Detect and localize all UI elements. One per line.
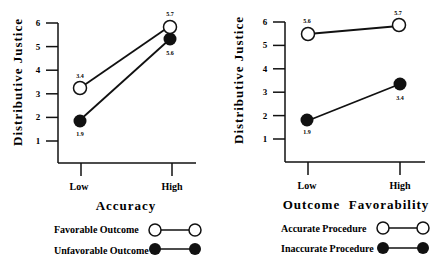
- right-value-acc-low: 5.6: [303, 18, 311, 24]
- right-legend-filled-marker-1: [377, 242, 389, 254]
- right-legend-open-label: Accurate Procedure: [281, 223, 367, 234]
- right-chart: Distributive Justice 1 2 3 4 5 6 Low Hig…: [231, 10, 429, 254]
- right-y-ticks: [273, 22, 285, 139]
- right-value-inacc-high: 3.4: [396, 95, 404, 101]
- right-inaccurate-high-marker: [394, 78, 407, 91]
- left-favorable-high-marker: [164, 21, 177, 34]
- right-value-inacc-low: 1.9: [303, 129, 311, 135]
- figure: Distributive Justice 1 2 3 4 5 6 Low Hig…: [0, 0, 442, 269]
- svg-text:5: 5: [263, 40, 268, 50]
- left-y-ticks: [46, 23, 58, 141]
- left-x-label-low: Low: [70, 181, 90, 192]
- left-legend-filled-label: Unfavorable Outcome: [54, 245, 149, 256]
- right-x-label-low: Low: [298, 180, 318, 191]
- svg-text:2: 2: [36, 112, 41, 122]
- right-inaccurate-low-marker: [301, 114, 314, 127]
- left-y-tick-labels: 1 2 3 4 5 6: [36, 18, 41, 146]
- left-favorable-low-marker: [74, 82, 87, 95]
- left-value-unfav-low: 1.9: [76, 131, 84, 137]
- svg-text:1: 1: [36, 136, 41, 146]
- right-y-axis-title: Distributive Justice: [231, 16, 246, 144]
- svg-text:3: 3: [36, 89, 41, 99]
- left-value-unfav-high: 5.6: [166, 50, 174, 56]
- svg-text:4: 4: [263, 64, 268, 74]
- left-unfavorable-low-marker: [74, 115, 87, 128]
- left-unfavorable-high-marker: [164, 33, 177, 46]
- left-value-fav-low: 3.4: [76, 73, 84, 79]
- right-accurate-low-marker: [302, 28, 315, 41]
- left-legend-open-label: Favorable Outcome: [54, 224, 139, 235]
- right-x-axis-title: Outcome Favorability: [283, 197, 430, 212]
- left-legend-filled-marker-1: [149, 243, 161, 255]
- svg-text:4: 4: [36, 65, 41, 75]
- left-value-fav-high: 5.7: [166, 11, 174, 17]
- left-y-axis-title: Distributive Justice: [10, 18, 25, 146]
- svg-text:6: 6: [36, 18, 41, 28]
- right-inaccurate-line: [307, 84, 400, 121]
- right-legend-open-marker-1: [377, 222, 389, 234]
- right-legend-filled-marker-2: [417, 242, 429, 254]
- svg-text:5: 5: [36, 42, 41, 52]
- svg-text:2: 2: [263, 111, 268, 121]
- svg-text:1: 1: [263, 134, 268, 144]
- right-legend-open-marker-2: [417, 222, 429, 234]
- right-y-tick-labels: 1 2 3 4 5 6: [263, 17, 268, 144]
- right-x-label-high: High: [389, 180, 411, 191]
- right-legend-filled-label: Inaccurate Procedure: [281, 243, 374, 254]
- left-legend-open-marker-1: [149, 224, 161, 236]
- right-accurate-high-marker: [393, 19, 406, 32]
- right-accurate-line: [308, 26, 399, 34]
- left-legend-open-marker-2: [189, 224, 201, 236]
- left-x-label-high: High: [161, 181, 183, 192]
- svg-text:6: 6: [263, 17, 268, 27]
- left-chart: Distributive Justice 1 2 3 4 5 6 Low Hig…: [10, 11, 201, 256]
- svg-text:3: 3: [263, 87, 268, 97]
- right-value-acc-high: 5.7: [394, 10, 402, 16]
- left-x-axis-title: Accuracy: [96, 198, 157, 213]
- left-legend-filled-marker-2: [189, 243, 201, 255]
